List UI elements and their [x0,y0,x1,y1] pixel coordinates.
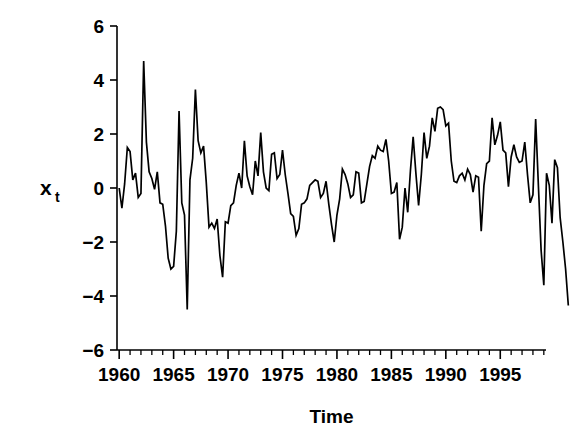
chart-figure: −6−4−20246 19601965197019751980198519901… [0,0,576,439]
x-tick-label: 1980 [316,364,358,385]
x-tick-label: 1975 [261,364,304,385]
series-xt [119,61,568,309]
y-axis: −6−4−20246 [82,16,117,361]
x-axis: 19601965197019751980198519901995 [98,350,546,385]
series-polyline [119,61,568,309]
y-axis-title-base: x [40,176,52,199]
y-tick-label: 4 [93,70,104,91]
x-axis-title: Time [309,406,353,427]
y-tick-label: 6 [93,16,104,37]
y-tick-label: −2 [82,232,104,253]
y-tick-label: −4 [82,286,104,307]
x-tick-label: 1990 [425,364,467,385]
x-tick-label: 1960 [98,364,140,385]
x-tick-label: 1995 [479,364,522,385]
x-tick-label: 1970 [207,364,249,385]
time-series-plot: −6−4−20246 19601965197019751980198519901… [0,0,576,439]
y-tick-label: 0 [93,178,104,199]
y-tick-label: 2 [93,124,104,145]
y-tick-label: −6 [82,340,104,361]
x-tick-label: 1985 [370,364,413,385]
y-axis-title: xt [40,176,60,205]
x-tick-label: 1965 [152,364,195,385]
y-axis-title-subscript: t [55,189,60,205]
